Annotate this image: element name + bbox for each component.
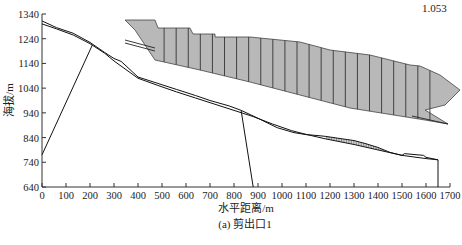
x-axis-title: 水平距离/m bbox=[218, 201, 274, 214]
factor-of-safety-label: 1.053 bbox=[422, 2, 447, 14]
sliding-mass-inset bbox=[125, 20, 460, 124]
lower-slide-mass-bottom-line bbox=[325, 139, 438, 187]
x-tick-label: 700 bbox=[202, 190, 218, 201]
y-tick-label: 1340 bbox=[18, 9, 39, 20]
y-tick-label: 1140 bbox=[18, 58, 39, 69]
shear-outlet-right-line bbox=[241, 111, 253, 187]
sliding-mass-fill bbox=[125, 20, 460, 124]
x-tick-label: 1500 bbox=[392, 190, 413, 201]
figure-caption: (a) 剪出口1 bbox=[218, 217, 271, 231]
x-tick-label: 200 bbox=[82, 190, 98, 201]
x-tick-label: 1000 bbox=[272, 190, 293, 201]
y-tick-label: 840 bbox=[23, 133, 39, 144]
x-tick-label: 500 bbox=[154, 190, 170, 201]
x-tick-label: 1200 bbox=[320, 190, 341, 201]
y-tick-label: 1240 bbox=[18, 34, 39, 45]
lower-slide-mass-top-line bbox=[325, 136, 438, 159]
y-tick-label: 940 bbox=[23, 108, 39, 119]
y-tick-label: 740 bbox=[23, 157, 39, 168]
x-tick-label: 400 bbox=[130, 190, 146, 201]
shear-outlet-left-line bbox=[42, 45, 92, 155]
x-tick-label: 1300 bbox=[344, 190, 365, 201]
x-tick-label: 1400 bbox=[368, 190, 389, 201]
x-tick-label: 1100 bbox=[296, 190, 317, 201]
y-tick-label: 1040 bbox=[18, 83, 39, 94]
x-tick-label: 300 bbox=[106, 190, 122, 201]
x-tick-label: 800 bbox=[226, 190, 242, 201]
y-tick-label: 640 bbox=[23, 182, 39, 193]
x-tick-label: 0 bbox=[39, 190, 44, 201]
slope-stability-chart: 0100200300400500600700800900100011001200… bbox=[0, 0, 462, 245]
x-tick-label: 100 bbox=[58, 190, 74, 201]
x-tick-label: 900 bbox=[250, 190, 266, 201]
x-tick-label: 1600 bbox=[416, 190, 437, 201]
x-tick-label: 1700 bbox=[440, 190, 461, 201]
y-axis-title: 海拔/m bbox=[2, 83, 15, 117]
x-tick-label: 600 bbox=[178, 190, 194, 201]
